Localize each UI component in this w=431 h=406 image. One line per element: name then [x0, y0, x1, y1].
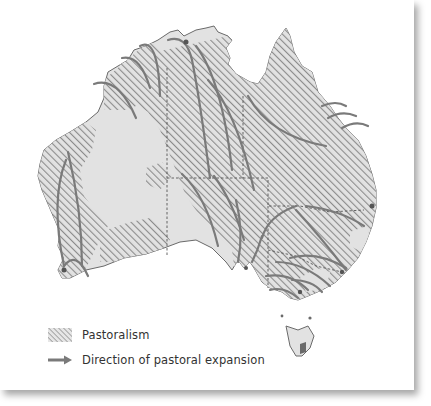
legend: Pastoralism Direction of pastoral expans…: [48, 324, 265, 374]
map-card: Pastoralism Direction of pastoral expans…: [0, 0, 414, 390]
legend-label: Pastoralism: [82, 328, 149, 342]
legend-label: Direction of pastoral expansion: [82, 353, 265, 367]
arrow-right-icon: [48, 353, 72, 367]
tasmania: [281, 315, 314, 356]
legend-item-pastoralism: Pastoralism: [48, 324, 265, 346]
hatch-swatch-icon: [48, 328, 72, 342]
legend-item-direction: Direction of pastoral expansion: [48, 349, 265, 371]
